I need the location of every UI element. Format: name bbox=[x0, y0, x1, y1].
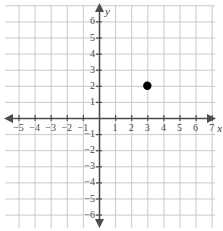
y-tick-label: −2 bbox=[75, 145, 95, 155]
x-axis-arrow-left bbox=[4, 114, 13, 123]
y-tick-label: −4 bbox=[75, 177, 95, 187]
y-axis-arrow-down bbox=[95, 219, 104, 228]
y-tick-label: −1 bbox=[75, 129, 95, 139]
y-tick-label: 2 bbox=[75, 81, 95, 91]
y-tick-label: −5 bbox=[75, 194, 95, 204]
grid-and-axes bbox=[0, 0, 223, 231]
y-tick-label: 1 bbox=[75, 97, 95, 107]
y-tick-label: 5 bbox=[75, 33, 95, 43]
y-axis-label: y bbox=[105, 6, 110, 17]
y-tick-label: 4 bbox=[75, 49, 95, 59]
x-axis-label: x bbox=[217, 123, 222, 134]
grid-lines bbox=[5, 5, 215, 228]
plotted-point[interactable] bbox=[143, 82, 151, 90]
y-tick-label: 6 bbox=[75, 16, 95, 26]
axis-lines bbox=[4, 3, 216, 228]
y-tick-label: −6 bbox=[75, 210, 95, 220]
y-tick-label: 3 bbox=[75, 65, 95, 75]
y-axis-arrow-up bbox=[95, 3, 104, 12]
y-tick-label: −3 bbox=[75, 161, 95, 171]
coordinate-plane: −5−4−3−2−11234567654321−1−2−3−4−5−6xy bbox=[0, 0, 223, 231]
